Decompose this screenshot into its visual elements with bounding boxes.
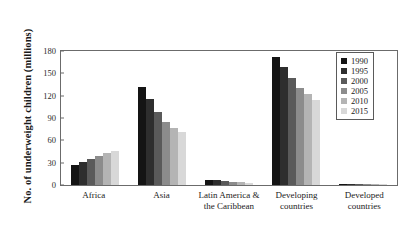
bar xyxy=(312,100,320,185)
legend-item[interactable]: 2000 xyxy=(341,76,368,86)
legend-swatch-icon xyxy=(341,88,347,94)
bar xyxy=(339,184,347,186)
x-axis-label: Africa xyxy=(60,190,128,213)
x-axis-label-line: Africa xyxy=(61,190,127,201)
bar xyxy=(146,99,154,185)
y-tick-label: 30 xyxy=(48,158,62,167)
y-tick-label: 150 xyxy=(43,69,61,78)
bar xyxy=(162,122,170,185)
bar xyxy=(280,67,288,185)
bar-group xyxy=(263,51,330,185)
chart-figure: No. of underweight children (millions) 0… xyxy=(0,0,417,232)
x-axis-label-line: countries xyxy=(331,201,397,212)
bar xyxy=(103,153,111,185)
bar xyxy=(138,87,146,185)
bar-group xyxy=(61,51,128,185)
legend-swatch-icon xyxy=(341,98,347,104)
y-axis-title: No. of underweight children (millions) xyxy=(18,0,36,232)
legend-label: 2000 xyxy=(351,77,368,86)
legend-swatch-icon xyxy=(341,78,347,84)
x-axis-label: Latin America &the Caribbean xyxy=(195,190,263,213)
x-axis-label-line: the Caribbean xyxy=(196,201,262,212)
legend-label: 1995 xyxy=(351,67,368,76)
legend-swatch-icon xyxy=(341,108,347,114)
bar xyxy=(237,182,245,185)
bar xyxy=(221,181,229,185)
bar xyxy=(347,184,355,186)
bar-group xyxy=(128,51,195,185)
bar xyxy=(245,183,253,185)
bar xyxy=(213,180,221,185)
bar xyxy=(229,182,237,185)
bar xyxy=(111,151,119,185)
bar xyxy=(71,165,79,185)
bar xyxy=(379,184,387,185)
legend-item[interactable]: 1990 xyxy=(341,56,368,66)
x-axis-label: Developingcountries xyxy=(263,190,331,213)
x-axis-label-line: Developing xyxy=(264,190,330,201)
legend-item[interactable]: 2015 xyxy=(341,106,368,116)
chart-legend: 199019952000200520102015 xyxy=(336,52,374,120)
bar xyxy=(154,112,162,185)
bar xyxy=(272,57,280,185)
y-tick-label: 180 xyxy=(43,47,61,56)
bar-group xyxy=(195,51,262,185)
legend-item[interactable]: 2010 xyxy=(341,96,368,106)
x-axis-label-line: countries xyxy=(264,201,330,212)
legend-label: 2015 xyxy=(351,107,368,116)
bar xyxy=(363,184,371,185)
bar xyxy=(87,159,95,185)
bar xyxy=(178,132,186,185)
bar xyxy=(304,94,312,185)
legend-swatch-icon xyxy=(341,58,347,64)
legend-item[interactable]: 2005 xyxy=(341,86,368,96)
legend-label: 2010 xyxy=(351,97,368,106)
legend-label: 1990 xyxy=(351,57,368,66)
bar xyxy=(95,156,103,185)
y-tick-label: 0 xyxy=(52,181,61,190)
x-axis-label-line: Asia xyxy=(129,190,195,201)
y-tick-label: 120 xyxy=(43,91,61,100)
y-tick-label: 60 xyxy=(48,136,62,145)
x-axis-labels: AfricaAsiaLatin America &the CaribbeanDe… xyxy=(60,190,398,213)
x-axis-label-line: Developed xyxy=(331,190,397,201)
bar xyxy=(296,88,304,185)
x-axis-label: Developedcountries xyxy=(330,190,398,213)
x-axis-label: Asia xyxy=(128,190,196,213)
y-tick-label: 90 xyxy=(48,114,62,123)
bar xyxy=(288,78,296,185)
x-axis-label-line: Latin America & xyxy=(196,190,262,201)
legend-swatch-icon xyxy=(341,68,347,74)
bar xyxy=(170,128,178,185)
bar xyxy=(371,184,379,185)
bar xyxy=(79,162,87,185)
legend-item[interactable]: 1995 xyxy=(341,66,368,76)
bar xyxy=(355,184,363,185)
bar xyxy=(205,180,213,185)
legend-label: 2005 xyxy=(351,87,368,96)
